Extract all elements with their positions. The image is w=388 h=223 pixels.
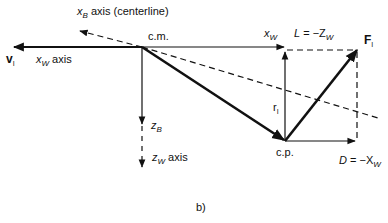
drag-lhs: D <box>339 154 347 166</box>
xb-text: axis (centerline) <box>88 5 169 17</box>
vi-var: v <box>6 52 13 66</box>
xw-axis-sub: W <box>42 59 50 68</box>
cp-label: c.p. <box>276 147 294 158</box>
cm-label: c.m. <box>148 31 169 42</box>
fi-label: FI <box>364 34 373 48</box>
vi-sub: I <box>13 60 15 67</box>
xw-axis-label: xW axis <box>36 54 72 68</box>
zw-axis-text: axis <box>165 151 188 163</box>
xw-label: xW <box>264 28 277 42</box>
lift-rhs: = −Z <box>300 27 326 39</box>
zb-label: zB <box>151 120 162 134</box>
zw-axis-label: zW axis <box>152 152 188 166</box>
vi-label: vI <box>6 53 15 67</box>
xb-axis-label: xB axis (centerline) <box>77 6 169 20</box>
ri-position-vector <box>142 47 284 140</box>
zw-axis-sub: W <box>158 157 166 166</box>
ri-sub: I <box>277 108 279 115</box>
lift-label: L = −ZW <box>294 28 333 42</box>
drag-sub: W <box>373 160 381 169</box>
ri-label: rI <box>273 102 279 115</box>
zb-sub: B <box>157 125 162 134</box>
lift-sub: W <box>326 33 334 42</box>
figure-caption: b) <box>196 202 206 213</box>
xw-axis-text: axis <box>49 53 72 65</box>
xw-sub: W <box>270 33 278 42</box>
drag-rhs: = −X <box>347 154 373 166</box>
drag-label: D = −XW <box>339 155 381 169</box>
fi-sub: I <box>371 41 373 48</box>
force-vector <box>285 50 357 141</box>
